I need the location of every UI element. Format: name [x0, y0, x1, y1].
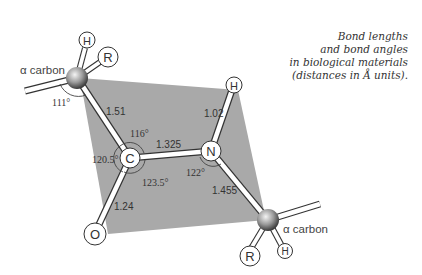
atom-label: H — [83, 35, 91, 47]
atom-h-calpha2: H — [278, 244, 293, 259]
caption-line: and bond angles — [290, 43, 409, 56]
atom-r-calpha1: R — [98, 47, 118, 67]
svg-text:O: O — [90, 227, 100, 242]
bond-angle-c-bottom: 123.5° — [142, 177, 169, 188]
caption-line: (distances in Å units). — [290, 69, 409, 82]
atom-nitrogen: N — [201, 141, 221, 161]
bond-angle-calpha1: 111° — [52, 97, 70, 108]
bond-length-c-n: 1.325 — [156, 139, 181, 150]
bond-length-calpha-c: 1.51 — [106, 106, 126, 117]
svg-text:H: H — [230, 80, 238, 92]
atom-r-calpha2: R — [240, 246, 260, 266]
bond-length-c-o: 1.24 — [114, 201, 134, 212]
bond-angle-n: 122° — [186, 167, 205, 178]
bond-angle-c-top: 116° — [130, 128, 149, 139]
svg-text:R: R — [245, 249, 254, 264]
atom-amide-hydrogen: H — [226, 77, 242, 93]
svg-text:N: N — [206, 144, 215, 159]
svg-text:H: H — [281, 246, 288, 257]
atom-h-calpha1: H — [79, 32, 95, 48]
caption-line: in biological materials — [290, 56, 409, 69]
bond-length-n-h: 1.02 — [204, 108, 224, 119]
atom-alpha-carbon-2 — [257, 209, 279, 231]
alpha-carbon-label-2: α carbon — [283, 223, 328, 235]
alpha-carbon-label-1: α carbon — [20, 64, 65, 76]
bond-angle-c-left: 120.5° — [92, 154, 119, 165]
svg-text:R: R — [103, 50, 112, 65]
caption-line: Bond lengths — [290, 30, 409, 43]
bond-length-n-calpha: 1.455 — [212, 185, 237, 196]
atom-alpha-carbon-1 — [66, 67, 88, 89]
atom-carbonyl-carbon: C — [120, 148, 140, 168]
atom-oxygen: O — [84, 223, 106, 245]
diagram-caption: Bond lengths and bond angles in biologic… — [290, 30, 409, 82]
svg-text:C: C — [125, 151, 134, 166]
